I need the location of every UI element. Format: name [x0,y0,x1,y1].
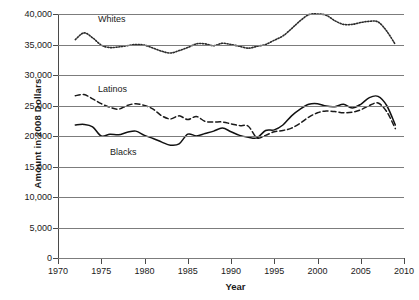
y-tick-label: 30,000 [8,71,52,80]
x-tick-label: 1985 [178,266,198,276]
plot-area [58,14,404,258]
y-tick-mark [53,136,58,137]
y-tick-mark [53,45,58,46]
y-tick-mark [53,228,58,229]
gridline [58,106,404,107]
x-tick-label: 1970 [48,266,68,276]
x-tick-mark [58,259,59,264]
gridline [58,45,404,46]
x-tick-label: 1975 [91,266,111,276]
x-tick-mark [318,259,319,264]
y-axis-tick-labels: 05,00010,00015,00020,00025,00030,00035,0… [6,0,52,300]
x-tick-label: 1980 [134,266,154,276]
gridline [58,228,404,229]
y-tick-label: 20,000 [8,132,52,141]
x-tick-mark [231,259,232,264]
gridline [58,197,404,198]
y-tick-mark [53,75,58,76]
x-tick-label: 1990 [221,266,241,276]
x-tick-mark [101,259,102,264]
x-tick-mark [274,259,275,264]
x-tick-mark [361,259,362,264]
x-tick-mark [188,259,189,264]
x-tick-label: 2010 [394,266,414,276]
y-tick-label: 10,000 [8,193,52,202]
x-axis-title: Year [0,281,419,292]
y-tick-label: 40,000 [8,10,52,19]
series-line-blacks [75,96,395,146]
y-tick-label: 0 [8,254,52,263]
x-tick-mark [404,259,405,264]
y-tick-mark [53,167,58,168]
series-lines [58,14,404,260]
gridline [58,136,404,137]
y-tick-label: 35,000 [8,41,52,50]
y-tick-label: 5,000 [8,224,52,233]
series-line-latinos [75,94,395,138]
x-tick-label: 2000 [307,266,327,276]
x-tick-mark [145,259,146,264]
y-tick-mark [53,197,58,198]
gridline [58,167,404,168]
series-label-blacks: Blacks [110,147,137,157]
gridline [58,75,404,76]
y-tick-label: 25,000 [8,102,52,111]
x-tick-label: 2005 [351,266,371,276]
series-label-latinos: Latinos [98,84,127,94]
y-tick-mark [53,106,58,107]
y-tick-mark [53,14,58,15]
x-tick-label: 1995 [264,266,284,276]
x-axis-title-text: Year [225,281,245,292]
series-label-whites: Whites [98,14,126,24]
y-tick-label: 15,000 [8,163,52,172]
line-chart: Amount in 2008 Dollars 05,00010,00015,00… [0,0,419,300]
